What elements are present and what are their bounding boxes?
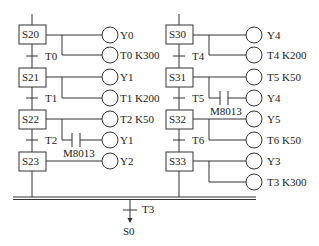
target-step-label-s0: S0 <box>123 226 135 237</box>
step-label-s20: S20 <box>22 29 39 40</box>
coil-icon <box>246 27 262 43</box>
coil-icon <box>246 69 262 85</box>
coil-label: Y4 <box>267 30 280 41</box>
coil-icon <box>102 153 118 169</box>
wire <box>62 77 102 98</box>
wire <box>62 119 72 140</box>
coil-icon <box>246 111 262 127</box>
transition-label-t2: T2 <box>45 135 57 146</box>
coil-label: Y2 <box>120 156 133 167</box>
coil-icon <box>102 27 118 43</box>
step-label-s31: S31 <box>169 72 186 83</box>
coil-label: T5 K50 <box>267 72 301 83</box>
coil-label: Y0 <box>120 30 133 41</box>
transition-label-t4: T4 <box>192 51 204 62</box>
step-label-s21: S21 <box>22 72 39 83</box>
wire <box>209 77 220 98</box>
coil-label: T0 K300 <box>120 50 159 61</box>
wire <box>209 161 246 182</box>
coil-icon <box>102 69 118 85</box>
coil-icon <box>246 153 262 169</box>
coil-icon <box>102 90 118 106</box>
coil-icon <box>246 90 262 106</box>
coil-label: Y1 <box>120 72 133 83</box>
transition-label-t5: T5 <box>192 93 204 104</box>
coil-label: Y4 <box>267 93 280 104</box>
transition-label-t3: T3 <box>142 204 154 215</box>
coil-label: Y3 <box>267 156 280 167</box>
coil-label: T1 K200 <box>120 93 159 104</box>
coil-icon <box>102 132 118 148</box>
arrow-down-icon <box>128 218 133 223</box>
coil-icon <box>102 111 118 127</box>
step-label-s23: S23 <box>22 156 39 167</box>
wire <box>209 119 246 140</box>
transition-label-t1: T1 <box>45 93 57 104</box>
wire <box>62 35 102 55</box>
coil-icon <box>246 174 262 190</box>
coil-label: Y5 <box>267 114 280 125</box>
coil-icon <box>246 47 262 63</box>
step-label-s32: S32 <box>169 114 186 125</box>
coil-icon <box>102 47 118 63</box>
coil-label: T2 K50 <box>120 114 154 125</box>
transition-label-t0: T0 <box>45 51 57 62</box>
coil-icon <box>246 132 262 148</box>
coil-label: T4 K200 <box>267 50 306 61</box>
step-label-s33: S33 <box>169 156 186 167</box>
coil-label: T3 K300 <box>267 177 306 188</box>
contact-label-m8013: M8013 <box>63 148 95 159</box>
step-label-s22: S22 <box>22 114 39 125</box>
contact-label-m8013: M8013 <box>210 106 242 117</box>
step-label-s30: S30 <box>169 29 186 40</box>
transition-label-t6: T6 <box>192 135 204 146</box>
coil-label: T6 K50 <box>267 135 301 146</box>
wire <box>209 35 246 55</box>
coil-label: Y1 <box>120 135 133 146</box>
